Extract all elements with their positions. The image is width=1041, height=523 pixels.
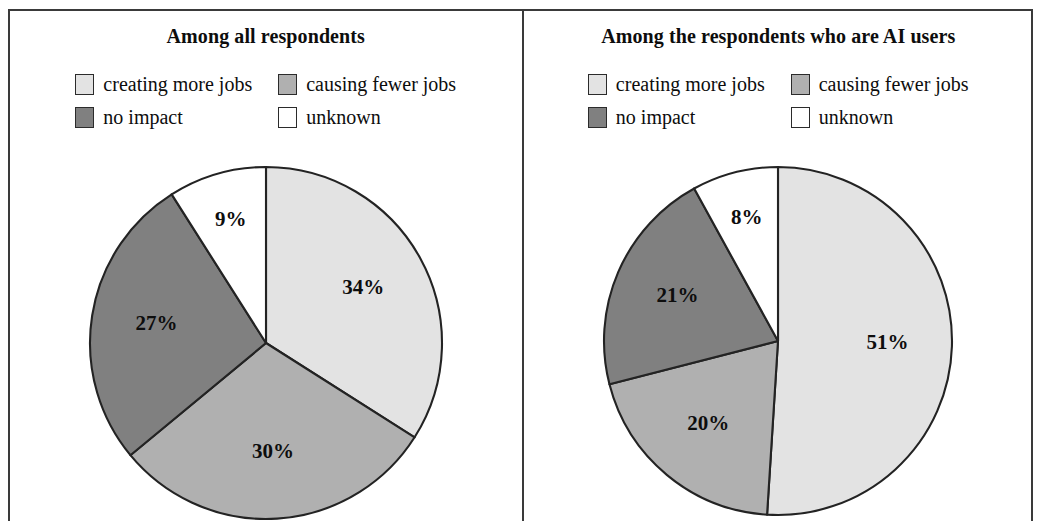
pie-slice-label: 21% (657, 283, 699, 307)
legend-swatch-icon (791, 107, 810, 128)
legend-item-unknown: unknown (791, 106, 969, 129)
legend-item-no-impact: no impact (588, 106, 765, 129)
pie-slice (767, 167, 952, 515)
pie-slice-label: 8% (731, 205, 763, 229)
panel-container: Among all respondents creating more jobs… (10, 11, 1033, 521)
legend-item-label: creating more jobs (103, 73, 252, 96)
pie-chart-ai-users-wrapper: 51%20%21%8% (524, 163, 1034, 519)
panel-ai-users: Among the respondents who are AI users c… (522, 11, 1034, 521)
legend-all-respondents: creating more jobs causing fewer jobs no… (10, 73, 522, 129)
figure-frame: Among all respondents creating more jobs… (8, 9, 1033, 521)
pie-slice-label: 9% (215, 207, 247, 231)
pie-slice-label: 34% (342, 275, 384, 299)
pie-slice-label: 20% (687, 411, 729, 435)
legend-swatch-icon (75, 74, 94, 95)
legend-item-causing-fewer-jobs: causing fewer jobs (791, 73, 969, 96)
pie-slice-label: 30% (252, 439, 294, 463)
panel-all-respondents: Among all respondents creating more jobs… (10, 11, 522, 521)
legend-item-label: no impact (616, 106, 695, 129)
legend-swatch-icon (75, 107, 94, 128)
legend-swatch-icon (791, 74, 810, 95)
legend-item-label: creating more jobs (616, 73, 765, 96)
page-title: Among the respondents who are AI users (524, 25, 1034, 48)
legend-item-no-impact: no impact (75, 106, 252, 129)
pie-chart-all-respondents: 34%30%27%9% (86, 163, 446, 523)
legend-swatch-icon (278, 107, 297, 128)
legend-item-creating-more-jobs: creating more jobs (75, 73, 252, 96)
legend-item-causing-fewer-jobs: causing fewer jobs (278, 73, 456, 96)
legend-swatch-icon (588, 107, 607, 128)
legend-item-label: unknown (819, 106, 893, 129)
pie-slice-label: 51% (867, 330, 909, 354)
pie-chart-all-respondents-wrapper: 34%30%27%9% (10, 163, 522, 523)
legend-item-unknown: unknown (278, 106, 456, 129)
legend-item-label: unknown (306, 106, 380, 129)
legend-swatch-icon (278, 74, 297, 95)
pie-slice-label: 27% (135, 311, 177, 335)
legend-item-label: causing fewer jobs (306, 73, 456, 96)
pie-chart-ai-users: 51%20%21%8% (600, 163, 956, 519)
legend-swatch-icon (588, 74, 607, 95)
legend-item-label: causing fewer jobs (819, 73, 969, 96)
page-title: Among all respondents (10, 25, 522, 48)
legend-item-creating-more-jobs: creating more jobs (588, 73, 765, 96)
legend-ai-users: creating more jobs causing fewer jobs no… (524, 73, 1034, 129)
legend-item-label: no impact (103, 106, 182, 129)
